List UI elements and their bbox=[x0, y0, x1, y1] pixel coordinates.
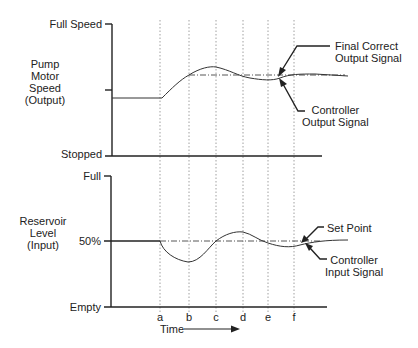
tick-e: e bbox=[262, 311, 274, 323]
controller-output-signal bbox=[112, 67, 348, 98]
fifty-percent-label: 50% bbox=[20, 235, 101, 247]
controller-input-label: Controller Input Signal bbox=[325, 254, 383, 278]
controller-output-label: Controller Output Signal bbox=[302, 104, 369, 128]
time-arrowhead bbox=[231, 326, 240, 333]
arrowhead bbox=[278, 67, 286, 77]
top-axes bbox=[105, 24, 322, 156]
full-speed-label: Full Speed bbox=[20, 18, 102, 30]
stopped-label: Stopped bbox=[20, 148, 102, 160]
final-correct-output-label: Final Correct Output Signal bbox=[335, 40, 402, 64]
set-point-arrow bbox=[306, 227, 324, 239]
controller-input-signal bbox=[160, 232, 348, 262]
tick-c: c bbox=[210, 311, 222, 323]
tick-d: d bbox=[237, 311, 249, 323]
arrowhead bbox=[301, 235, 309, 243]
tick-f: f bbox=[288, 311, 300, 323]
time-gridlines bbox=[160, 20, 294, 312]
top-axis-title: Pump Motor Speed (Output) bbox=[20, 58, 70, 106]
arrowhead bbox=[279, 78, 287, 87]
full-label: Full bbox=[20, 170, 101, 182]
final-correct-arrow bbox=[282, 46, 330, 70]
set-point-label: Set Point bbox=[327, 222, 372, 234]
tick-b: b bbox=[183, 311, 195, 323]
tick-a: a bbox=[154, 311, 166, 323]
time-label: Time bbox=[160, 323, 184, 335]
empty-label: Empty bbox=[20, 301, 101, 313]
